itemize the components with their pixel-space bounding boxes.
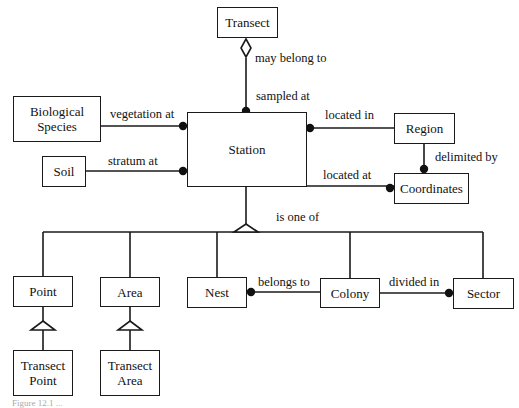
cardinality-dot-icon [179,122,187,130]
entity-transect: Transect [217,7,278,38]
aggregation-diamond-icon [241,39,251,57]
entity-label: Transect Point [16,358,71,388]
entity-label: Sector [467,286,500,301]
entity-nest: Nest [187,277,247,308]
entity-label: Station [229,142,266,157]
entity-coordinates: Coordinates [394,173,469,204]
generalization-triangle-icon [118,321,142,330]
relationship-label-may-belong-to: may belong to [255,51,327,65]
cardinality-dot-icon [306,124,314,132]
relationship-label-stratum-at: stratum at [108,154,158,168]
entity-label: Nest [205,285,229,300]
entity-colony: Colony [320,278,380,308]
relationship-label-divided-in: divided in [389,275,439,289]
relationship-label-located-in: located in [325,108,374,122]
entity-label: Transect Area [103,358,158,388]
cardinality-dot-icon [386,184,394,192]
entity-label: Colony [331,286,369,301]
entity-sector: Sector [453,278,514,309]
cardinality-dot-icon [179,167,187,175]
relationship-label-vegetation-at: vegetation at [110,107,174,121]
relationship-label-located-at: located at [323,168,371,182]
entity-label: Biological Species [22,104,92,134]
entity-area: Area [100,277,160,307]
entity-label: Coordinates [400,181,463,196]
entity-region: Region [394,113,455,144]
cardinality-dot-icon [247,288,255,296]
entity-transect-point: Transect Point [13,350,73,396]
entity-biological-species: Biological Species [13,96,101,142]
entity-station: Station [187,112,307,187]
relationship-label-belongs-to: belongs to [258,275,310,289]
entity-label: Point [29,284,56,299]
relationship-label-is-one-of: is one of [276,210,319,224]
entity-label: Area [117,285,142,300]
entity-point: Point [13,276,73,307]
entity-soil: Soil [42,156,86,187]
entity-label: Region [406,121,444,136]
cardinality-dot-icon [445,289,453,297]
entity-label: Transect [225,15,269,30]
generalization-triangle-icon [234,224,258,232]
entity-label: Soil [54,164,75,179]
relationship-label-delimited-by: delimited by [435,150,498,164]
relationship-label-sampled-at: sampled at [256,89,310,103]
generalization-triangle-icon [31,321,55,330]
cardinality-dot-icon [420,165,428,173]
entity-transect-area: Transect Area [100,350,160,396]
figure-caption: Figure 12.1 ... [12,398,63,408]
